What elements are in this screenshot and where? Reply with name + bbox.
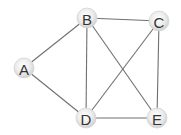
node-label: C (154, 14, 165, 31)
node-a: A (14, 58, 34, 78)
edge-c-e (157, 21, 159, 118)
edge-a-d (24, 68, 86, 118)
edge-a-b (24, 18, 87, 68)
edges-layer (24, 18, 159, 118)
edge-b-d (86, 18, 87, 118)
graph-diagram: ABCDE (0, 0, 181, 135)
node-b: B (77, 8, 97, 28)
node-label: E (152, 111, 162, 128)
node-e: E (147, 108, 167, 128)
edge-c-d (86, 21, 159, 118)
node-label: A (19, 61, 29, 78)
nodes-layer: ABCDE (14, 8, 169, 128)
edge-b-c (87, 18, 159, 21)
node-label: D (81, 111, 92, 128)
node-label: B (82, 11, 92, 28)
node-c: C (149, 11, 169, 31)
node-d: D (76, 108, 96, 128)
